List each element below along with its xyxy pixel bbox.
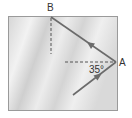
reflection-diagram: B A 35°	[0, 0, 132, 118]
diagram-canvas	[0, 0, 132, 118]
label-b: B	[47, 3, 54, 13]
angle-label: 35°	[89, 65, 104, 75]
label-a: A	[119, 58, 126, 68]
